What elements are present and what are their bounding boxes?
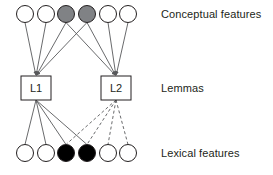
edge-c1-to-L1	[25, 23, 36, 75]
lexical-feature-nodes	[17, 145, 137, 162]
lemma-label-L1: L1	[30, 82, 42, 94]
lemma-label-L2: L2	[110, 82, 122, 94]
lexical-feature-node-x5	[100, 145, 117, 162]
lemma-to-lexical-edges	[25, 100, 128, 144]
conceptual-to-lemma-edges	[25, 23, 128, 75]
conceptual-feature-node-c2	[38, 6, 55, 23]
conceptual-feature-node-c1	[17, 6, 34, 23]
edge-c3-to-L2	[66, 23, 115, 75]
row-label-lemmas: Lemmas	[161, 82, 204, 94]
conceptual-feature-node-c4	[79, 6, 96, 23]
lexical-feature-node-x1	[17, 145, 34, 162]
edge-c5-to-L2	[108, 23, 116, 75]
edge-L1-to-x1	[25, 100, 36, 144]
edge-c4-to-L2	[87, 23, 115, 75]
row-label-lexical-features: Lexical features	[161, 147, 240, 159]
edge-c6-to-L2	[116, 23, 128, 75]
conceptual-feature-node-c6	[120, 6, 137, 23]
lexical-feature-node-x4	[79, 145, 96, 162]
lexical-feature-node-x2	[38, 145, 55, 162]
conceptual-feature-node-c5	[100, 6, 117, 23]
conceptual-feature-node-c3	[58, 6, 75, 23]
lemma-nodes: L1L2	[21, 76, 131, 100]
lexical-feature-node-x3	[58, 145, 75, 162]
row-label-conceptual-features: Conceptual features	[161, 8, 261, 20]
conceptual-feature-nodes	[17, 6, 137, 23]
lexical-feature-node-x6	[120, 145, 137, 162]
diagram-canvas: L1L2 Conceptual features Lemmas Lexical …	[0, 0, 273, 175]
edge-L2-to-x6	[116, 100, 128, 144]
